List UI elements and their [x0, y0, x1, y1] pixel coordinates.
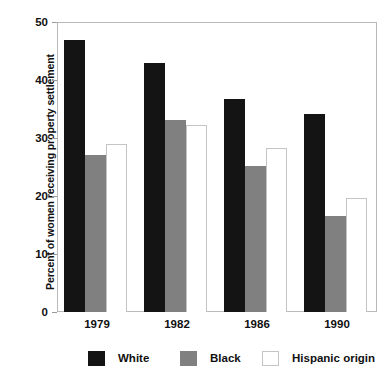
chart-legend: WhiteBlackHispanic origin	[0, 348, 387, 372]
bars-layer	[57, 22, 377, 312]
bar-chart: Percent of women receiving property sett…	[0, 0, 387, 381]
y-axis-tick: 10	[0, 254, 57, 255]
bar-1986-hispanic-origin	[266, 148, 287, 312]
bar-1990-black	[325, 216, 346, 312]
legend-item-hispanic-origin: Hispanic origin	[262, 348, 375, 368]
y-tick-label: 20	[35, 188, 48, 204]
legend-item-white: White	[88, 348, 149, 368]
legend-item-black: Black	[180, 348, 241, 368]
bar-1990-hispanic-origin	[346, 198, 367, 312]
y-tick-label: 50	[35, 14, 48, 30]
bar-1986-black	[245, 166, 266, 312]
bar-1979-white	[64, 40, 85, 312]
x-axis-label-1979: 1979	[62, 318, 132, 330]
y-tick-label: 30	[35, 130, 48, 146]
bar-1982-white	[144, 63, 165, 312]
y-tick-label: 10	[35, 246, 48, 262]
y-axis-tick: 0	[0, 312, 57, 313]
y-axis-tick: 40	[0, 80, 57, 81]
x-axis-label-1990: 1990	[302, 318, 372, 330]
legend-label: Hispanic origin	[292, 352, 375, 364]
legend-label: White	[118, 352, 149, 364]
y-tick-label: 40	[35, 72, 48, 88]
bar-1986-white	[224, 99, 245, 312]
y-tick-label: 0	[42, 304, 48, 320]
legend-swatch-black	[180, 351, 197, 366]
bar-1990-white	[304, 114, 325, 312]
bar-1979-black	[85, 155, 106, 312]
legend-swatch-hispanic-origin	[262, 351, 279, 366]
legend-swatch-white	[88, 351, 105, 366]
bar-1982-hispanic-origin	[186, 125, 207, 312]
legend-label: Black	[210, 352, 241, 364]
bar-1982-black	[165, 120, 186, 312]
y-tick-mark	[52, 312, 57, 313]
x-axis-label-1982: 1982	[142, 318, 212, 330]
x-axis-label-1986: 1986	[222, 318, 292, 330]
bar-1979-hispanic-origin	[106, 144, 127, 312]
y-axis-tick: 30	[0, 138, 57, 139]
y-axis-tick: 20	[0, 196, 57, 197]
y-axis-title: Percent of women receiving property sett…	[44, 22, 56, 322]
y-axis-tick: 50	[0, 22, 57, 23]
